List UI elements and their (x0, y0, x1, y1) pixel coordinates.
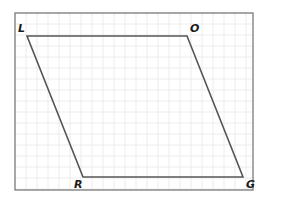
vertex-label-l: L (18, 22, 25, 35)
grid-lines (15, 13, 253, 190)
parallelogram-diagram: L O G R (0, 0, 281, 207)
vertex-label-o: O (190, 22, 199, 35)
vertex-label-g: G (246, 178, 255, 191)
vertex-label-r: R (74, 178, 82, 191)
